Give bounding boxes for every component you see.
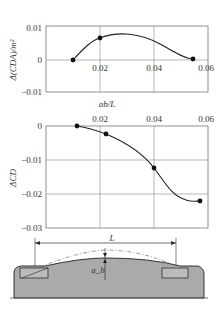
- data-point: [191, 57, 196, 62]
- rear-spoiler: [162, 268, 188, 278]
- vehicle-diagram: L a_b: [10, 233, 208, 298]
- y-tick: −0.01: [21, 87, 42, 97]
- data-point: [104, 132, 109, 137]
- top-plot-frame: [46, 26, 208, 92]
- y-tick: −0.02: [21, 189, 42, 199]
- y-axis-label: Δ(CDA)/m²: [8, 39, 18, 81]
- length-label: L: [108, 233, 114, 243]
- x-tick: 0.06: [198, 63, 214, 73]
- data-curve: [77, 126, 200, 201]
- bottom-plot-frame: [46, 126, 208, 228]
- y-tick: −0.03: [21, 223, 42, 233]
- x-tick: 0.02: [92, 63, 108, 73]
- data-point: [152, 166, 157, 171]
- x-tick: 0.06: [198, 114, 214, 124]
- data-point: [198, 199, 203, 204]
- y-tick: 0: [38, 55, 43, 65]
- x-tick: 0.02: [92, 114, 108, 124]
- figure: 0.01 0 −0.01 0.02 0.04 0.06 Δ(CDA)/m² ab…: [0, 0, 222, 311]
- data-point: [71, 58, 76, 63]
- top-chart: 0.01 0 −0.01 0.02 0.04 0.06 Δ(CDA)/m²: [8, 23, 214, 97]
- data-curve: [73, 34, 193, 60]
- data-point: [75, 124, 80, 129]
- data-point: [98, 36, 103, 41]
- y-axis-label: ΔCD: [8, 169, 18, 188]
- y-tick: 0.01: [26, 23, 42, 33]
- x-tick: 0.04: [146, 114, 162, 124]
- height-label: a_b: [91, 265, 105, 275]
- x-tick: 0.04: [146, 63, 162, 73]
- bottom-chart: 0 −0.01 −0.02 −0.03 0.02 0.04 0.06 ΔCD: [8, 114, 214, 233]
- y-tick: −0.01: [21, 155, 42, 165]
- x-axis-label: ab/L: [99, 99, 116, 109]
- y-tick: 0: [38, 121, 43, 131]
